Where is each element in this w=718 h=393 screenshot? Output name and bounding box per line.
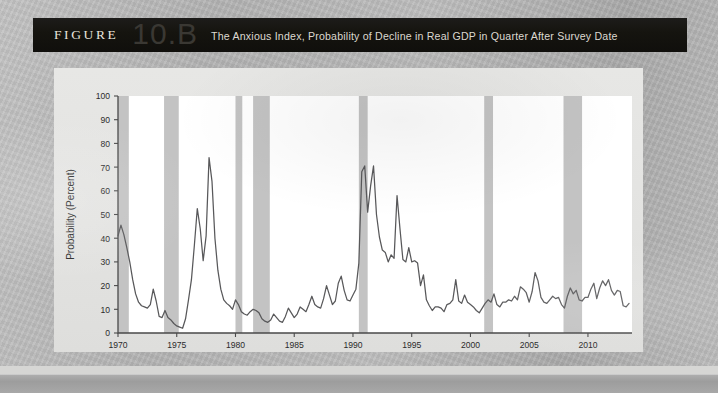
x-tick-label: 1995 xyxy=(402,340,421,350)
anxious-index-chart: 0102030405060708090100197019751980198519… xyxy=(54,68,643,352)
figure-label: FIGURE xyxy=(54,27,118,43)
bottom-band xyxy=(0,374,718,393)
y-tick-label: 80 xyxy=(100,139,110,149)
y-tick-label: 90 xyxy=(100,115,110,125)
x-tick-label: 1975 xyxy=(167,340,186,350)
y-axis-title: Probability (Percent) xyxy=(65,169,76,260)
x-tick-label: 2005 xyxy=(520,340,539,350)
y-tick-label: 70 xyxy=(100,163,110,173)
x-tick-label: 1990 xyxy=(343,340,362,350)
recession-band xyxy=(564,96,583,333)
figure-caption: The Anxious Index, Probability of Declin… xyxy=(211,30,618,42)
y-tick-label: 60 xyxy=(100,186,110,196)
y-tick-label: 50 xyxy=(100,210,110,220)
y-tick-label: 100 xyxy=(96,91,111,101)
x-tick-label: 1985 xyxy=(285,340,304,350)
figure-number: 10.B xyxy=(132,19,198,49)
x-tick-label: 2000 xyxy=(461,340,480,350)
figure-header-bar: FIGURE 10.B The Anxious Index, Probabili… xyxy=(33,18,687,52)
x-tick-label: 1970 xyxy=(108,340,127,350)
y-tick-label: 30 xyxy=(100,257,110,267)
recession-band xyxy=(253,96,270,333)
figure-block: FIGURE 10.B The Anxious Index, Probabili… xyxy=(33,6,687,360)
y-tick-label: 20 xyxy=(100,281,110,291)
x-tick-label: 1980 xyxy=(226,340,245,350)
y-tick-label: 10 xyxy=(100,305,110,315)
recession-band xyxy=(235,96,242,333)
bottom-gap xyxy=(0,366,718,374)
x-tick-label: 2010 xyxy=(578,340,597,350)
recession-band xyxy=(118,96,129,333)
recession-band xyxy=(164,96,179,333)
recession-band xyxy=(484,96,493,333)
y-tick-label: 0 xyxy=(105,328,110,338)
y-tick-label: 40 xyxy=(100,234,110,244)
